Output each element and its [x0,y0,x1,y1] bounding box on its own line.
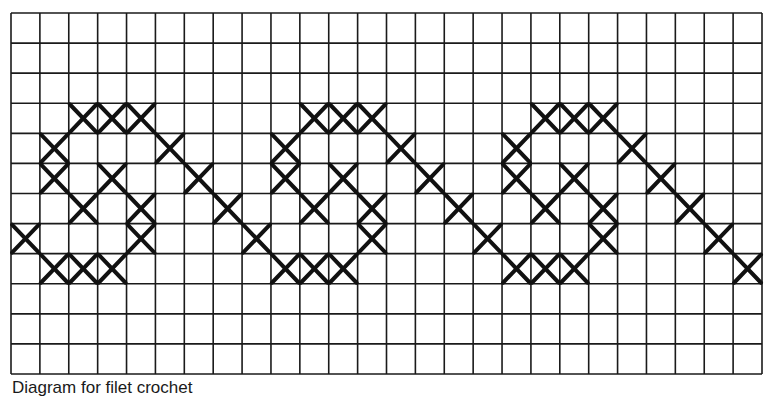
cross-stitch-x-icon [359,195,386,223]
cross-stitch-x-icon [214,195,241,223]
cross-stitch-x-icon [70,255,97,283]
cross-stitch-x-icon [330,255,357,283]
cross-stitch-x-icon [676,195,703,223]
cross-stitch-x-icon [272,134,299,162]
cross-stitch-x-icon [41,255,68,283]
figure-caption: Diagram for filet crochet [12,379,192,396]
cross-stitch-x-icon [128,104,155,132]
cross-stitch-x-icon [41,164,68,192]
cross-stitch-x-icon [243,225,270,253]
cross-stitch-x-icon [388,134,415,162]
cross-stitch-x-icon [330,164,357,192]
cross-stitch-x-icon [156,134,183,162]
cross-stitch-x-icon [359,104,386,132]
cross-stitch-x-icon [445,195,472,223]
cross-stitch-x-icon [647,164,674,192]
cross-stitch-x-icon [301,104,328,132]
cross-stitch-x-icon [330,104,357,132]
cross-stitch-x-icon [70,195,97,223]
cross-stitch-x-icon [590,195,617,223]
cross-stitch-x-icon [12,225,39,253]
cross-stitch-x-icon [705,225,732,253]
cross-stitch-x-icon [416,164,443,192]
cross-stitch-x-icon [272,255,299,283]
cross-stitch-x-icon [301,255,328,283]
cross-stitch-x-icon [359,225,386,253]
cross-stitch-x-icon [301,195,328,223]
cross-stitch-x-icon [99,255,126,283]
cross-stitch-x-icon [561,164,588,192]
cross-stitch-grid [0,0,770,378]
cross-stitch-x-icon [590,225,617,253]
cross-stitch-x-icon [532,255,559,283]
cross-stitch-x-icon [474,225,501,253]
cross-stitch-x-icon [734,255,761,283]
cross-stitch-x-icon [561,255,588,283]
cross-stitch-x-icon [41,134,68,162]
cross-stitch-x-icon [590,104,617,132]
cross-stitch-x-icon [70,104,97,132]
cross-stitch-x-icon [272,164,299,192]
cross-stitch-x-icon [128,195,155,223]
cross-stitch-x-icon [128,225,155,253]
cross-stitch-x-icon [185,164,212,192]
cross-stitch-x-icon [561,104,588,132]
cross-stitch-x-icon [99,104,126,132]
cross-stitch-x-icon [532,104,559,132]
cross-stitch-x-icon [99,164,126,192]
cross-stitch-x-icon [503,164,530,192]
cross-stitch-x-icon [503,134,530,162]
cross-stitch-x-icon [619,134,646,162]
cross-stitch-x-icon [503,255,530,283]
cross-stitch-x-icon [532,195,559,223]
